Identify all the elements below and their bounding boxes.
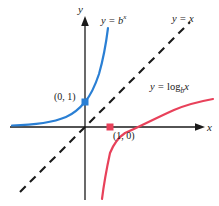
y-axis <box>81 16 89 200</box>
logarithm-curve-label: y = logbx <box>150 82 189 95</box>
figure-container: y x y = bx y = x y = logbx (0, 1) (1, 0) <box>0 0 219 206</box>
logarithm-label-prefix: y = <box>150 81 167 92</box>
logarithm-label-arg: x <box>184 81 189 92</box>
logarithm-curve <box>102 99 213 199</box>
exponential-curve <box>12 28 108 126</box>
point-label-exp: (0, 1) <box>54 92 76 102</box>
exponential-curve-label: y = bx <box>101 14 126 26</box>
identity-line-label: y = x <box>172 14 194 25</box>
exponential-curve-label-exponent: x <box>123 13 126 21</box>
x-axis-label: x <box>207 122 212 133</box>
y-axis-label: y <box>78 4 83 15</box>
logarithm-label-func: log <box>167 81 180 92</box>
exponential-curve-label-base: y = b <box>101 15 123 26</box>
plot-canvas <box>0 0 219 206</box>
point-label-log: (1, 0) <box>113 131 135 141</box>
point-marker-exp <box>82 99 89 106</box>
